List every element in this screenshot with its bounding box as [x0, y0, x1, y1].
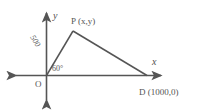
- y-axis-label: y: [53, 11, 57, 21]
- segment-pd: [73, 31, 147, 76]
- angle-o-label: 60°: [52, 65, 63, 73]
- diagram-canvas: y x O P (x,y) D (1000,0) 60° 500: [0, 0, 202, 110]
- origin-label: O: [35, 80, 42, 89]
- point-d-label: D (1000,0): [139, 88, 179, 97]
- x-axis-label: x: [152, 57, 156, 67]
- point-p-label: P (x,y): [71, 17, 95, 26]
